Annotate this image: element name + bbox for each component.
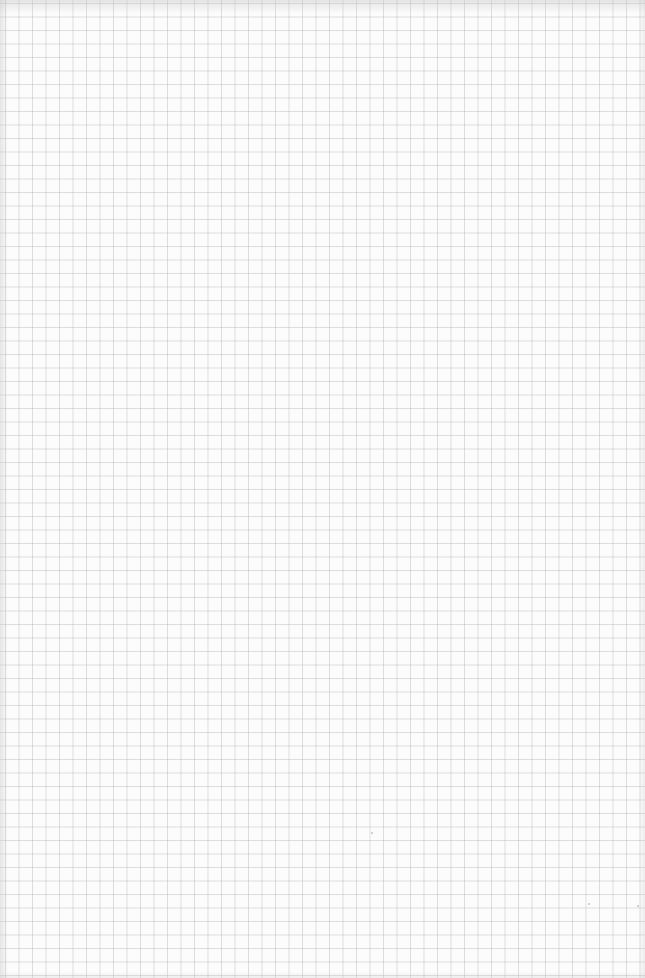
paper-speck [637,905,639,907]
graph-paper-sheet [0,0,645,978]
edge-shadow [0,0,645,978]
paper-speck [371,832,373,834]
paper-speck [588,903,590,905]
